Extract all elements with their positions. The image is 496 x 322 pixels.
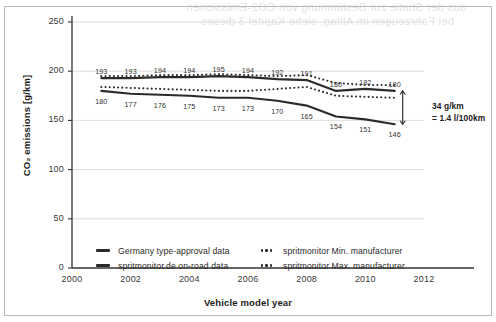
series-dot-2	[113, 75, 115, 77]
series-dot-3	[222, 90, 224, 92]
series-dot-3	[256, 89, 258, 91]
series-dot-3	[372, 96, 374, 98]
series-dot-3	[314, 88, 316, 90]
x-tick-label: 2002	[111, 274, 151, 284]
data-point-label: 194	[149, 66, 171, 75]
series-dot-3	[243, 90, 245, 92]
series-dot-3	[330, 93, 332, 95]
y-tick-label: 100	[30, 164, 64, 174]
series-dot-3	[155, 88, 157, 90]
series-dot-3	[268, 88, 270, 90]
series-dot-3	[363, 96, 365, 98]
series-dot-3	[134, 87, 136, 89]
series-dot-3	[289, 87, 291, 89]
series-dot-3	[146, 87, 148, 89]
chart-page: aus der Studie zur Bestimmung von CO2-Em…	[0, 0, 496, 322]
x-tick-label: 2000	[52, 274, 92, 284]
series-dot-3	[285, 87, 287, 89]
series-dot-3	[322, 91, 324, 93]
series-dot-3	[306, 86, 308, 88]
series-dot-3	[209, 90, 211, 92]
legend-solid-line-icon	[96, 261, 112, 270]
legend-label: Germany type-approval data	[118, 246, 230, 256]
legend-row: Germany type-approval dataspritmonitor M…	[96, 243, 426, 258]
series-dot-3	[138, 87, 140, 89]
legend-item: spritmonitor Min. manufacturer	[261, 246, 426, 256]
series-dot-3	[142, 87, 144, 89]
x-tick-label: 2008	[287, 274, 327, 284]
series-dot-3	[172, 88, 174, 90]
y-axis-title: CO₂ emissions [g/km]	[21, 56, 32, 196]
data-point-label: 191	[296, 69, 318, 78]
legend-dotted-line-icon	[261, 246, 277, 255]
series-dot-3	[260, 89, 262, 91]
series-dot-3	[347, 95, 349, 97]
chart-legend: Germany type-approval dataspritmonitor M…	[96, 243, 426, 273]
series-dot-3	[180, 89, 182, 91]
data-point-label: 193	[120, 67, 142, 76]
series-dot-3	[151, 88, 153, 90]
series-dot-3	[368, 96, 370, 98]
series-dot-3	[281, 88, 283, 90]
series-dot-3	[376, 96, 378, 98]
series-dot-2	[260, 75, 262, 77]
series-dot-3	[342, 95, 344, 97]
data-point-label: 182	[354, 78, 376, 87]
legend-item: Germany type-approval data	[96, 246, 261, 256]
series-dot-3	[247, 90, 249, 92]
data-point-label: 192	[266, 68, 288, 77]
series-dot-3	[326, 92, 328, 94]
series-dot-3	[393, 97, 395, 99]
series-dot-3	[104, 86, 106, 88]
series-dot-2	[318, 77, 320, 79]
series-dot-3	[298, 86, 300, 88]
series-dot-3	[125, 87, 127, 89]
series-dot-3	[230, 90, 232, 92]
series-dot-3	[293, 87, 295, 89]
legend-label: spritmonitor Max. manufacturer	[283, 261, 405, 271]
data-point-label: 173	[208, 104, 230, 113]
data-point-label: 170	[266, 107, 288, 116]
series-dot-3	[251, 90, 253, 92]
series-dot-3	[239, 90, 241, 92]
data-point-label: 173	[237, 104, 259, 113]
data-point-label: 195	[208, 65, 230, 74]
series-dot-3	[359, 96, 361, 98]
series-dot-2	[172, 74, 174, 76]
data-point-label: 175	[178, 102, 200, 111]
x-tick-label: 2012	[404, 274, 444, 284]
legend-item: spritmonitor Max. manufacturer	[261, 261, 426, 271]
y-tick-label: 250	[30, 16, 64, 26]
data-point-label: 176	[149, 101, 171, 110]
series-dot-2	[376, 84, 378, 86]
x-tick-label: 2006	[228, 274, 268, 284]
series-dot-2	[142, 75, 144, 77]
y-tick-label: 50	[30, 213, 64, 223]
legend-item: spritmonitor.de on-road data	[96, 261, 261, 271]
series-dot-3	[130, 87, 132, 89]
data-point-label: 177	[120, 100, 142, 109]
series-dot-3	[205, 89, 207, 91]
legend-solid-line-icon	[96, 246, 112, 255]
series-dot-3	[310, 87, 312, 89]
legend-label: spritmonitor Min. manufacturer	[283, 246, 403, 256]
series-dot-3	[163, 88, 165, 90]
series-line-solid-0	[101, 76, 394, 91]
data-point-label: 180	[325, 80, 347, 89]
series-dot-3	[355, 95, 357, 97]
series-dot-3	[188, 89, 190, 91]
series-dot-3	[318, 90, 320, 92]
series-dot-3	[226, 90, 228, 92]
delta-annotation: 34 g/km = 1.4 l/100km	[432, 101, 494, 124]
data-point-label: 194	[178, 66, 200, 75]
series-dot-3	[389, 97, 391, 99]
series-dot-3	[159, 88, 161, 90]
series-dot-3	[109, 86, 111, 88]
series-dot-2	[381, 84, 383, 86]
data-point-label: 165	[296, 112, 318, 121]
delta-annotation-line-2: = 1.4 l/100km	[432, 113, 494, 125]
series-dot-3	[167, 88, 169, 90]
series-dot-3	[277, 88, 279, 90]
series-dot-3	[100, 86, 102, 88]
series-dot-3	[197, 89, 199, 91]
